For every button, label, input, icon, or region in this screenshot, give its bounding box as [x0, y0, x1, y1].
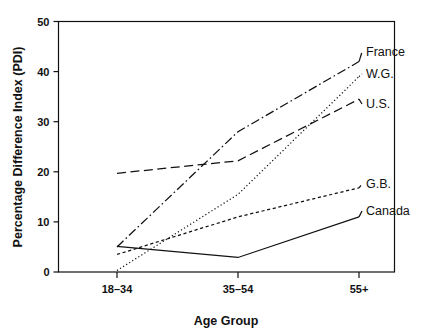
y-tick-label: 20 [37, 166, 49, 178]
chart-container: 01020304050 18–3435–5455+ FranceW.G.U.S.… [0, 0, 434, 336]
y-tick-label: 30 [37, 116, 49, 128]
x-axis-title: Age Group [194, 314, 259, 328]
y-tick-label: 10 [37, 216, 49, 228]
line-chart: 01020304050 18–3435–5455+ FranceW.G.U.S.… [0, 0, 434, 336]
series-label-france: France [366, 45, 405, 59]
series-label-canada: Canada [366, 204, 410, 218]
series-label-us: U.S. [366, 97, 390, 111]
y-tick-label: 0 [43, 266, 49, 278]
y-tick-label: 50 [37, 16, 49, 28]
x-tick-label: 35–54 [223, 283, 254, 295]
x-tick-label: 55+ [350, 283, 369, 295]
y-axis-title: Percentage Difference Index (PDI) [11, 47, 25, 248]
series-label-wg: W.G. [366, 67, 394, 81]
series-label-gb: G.B. [366, 177, 391, 191]
x-tick-label: 18–34 [102, 283, 133, 295]
y-tick-label: 40 [37, 66, 49, 78]
